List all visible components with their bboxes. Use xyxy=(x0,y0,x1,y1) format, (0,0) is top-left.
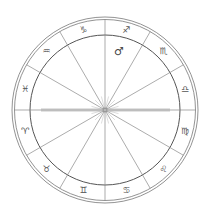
sign-divider xyxy=(60,32,68,45)
sign-divider xyxy=(170,65,183,73)
sign-gemini-icon: ♊ xyxy=(80,185,88,195)
sign-divider xyxy=(27,148,40,156)
sign-pisces-icon: ♓ xyxy=(21,84,29,94)
sign-sagittarius-icon: ♐ xyxy=(122,25,130,35)
house-cusp-line xyxy=(105,73,170,111)
sign-cancer-icon: ♋ xyxy=(122,185,130,195)
sign-libra-icon: ♎ xyxy=(181,84,189,94)
zodiac-wheel: ♎♏♐♑♒♓♈♉♊♋♌♍ ♂ xyxy=(0,0,207,214)
sign-divider xyxy=(170,148,183,156)
sign-aquarius-icon: ♒ xyxy=(42,46,50,56)
sign-divider xyxy=(27,65,40,73)
sign-taurus-icon: ♉ xyxy=(42,164,50,174)
astrology-chart: ♎♏♐♑♒♓♈♉♊♋♌♍ ♂ xyxy=(0,0,207,214)
sign-scorpio-icon: ♏ xyxy=(159,46,167,56)
sign-capricorn-icon: ♑ xyxy=(80,25,88,35)
sign-divider xyxy=(143,32,151,45)
house-cusp-line xyxy=(105,110,143,175)
house-cusp-line xyxy=(68,110,106,175)
sign-divider xyxy=(60,175,68,188)
house-cusp-line xyxy=(68,45,106,110)
house-cusp-line xyxy=(105,110,170,148)
ascendant-axis xyxy=(30,109,180,111)
planet-glyphs: ♂ xyxy=(114,45,124,58)
sign-leo-icon: ♌ xyxy=(159,164,167,174)
house-cusp-line xyxy=(40,110,105,148)
sign-divider xyxy=(143,175,151,188)
house-cusp-line xyxy=(40,73,105,111)
sign-aries-icon: ♈ xyxy=(21,126,30,136)
sign-virgo-icon: ♍ xyxy=(181,126,189,136)
planet-mars-icon: ♂ xyxy=(114,45,124,58)
